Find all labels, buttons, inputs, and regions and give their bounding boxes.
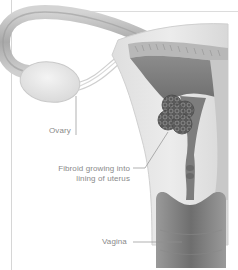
uterus-fibroid-diagram: Ovary Fibroid growing into lining of ute…: [0, 0, 238, 270]
anatomy-illustration: [0, 0, 238, 270]
label-fibroid-line1: Fibroid growing into: [48, 164, 130, 173]
label-fibroid-line2: lining of uterus: [48, 174, 130, 183]
label-ovary: Ovary: [49, 126, 71, 135]
label-vagina: Vagina: [102, 237, 127, 246]
